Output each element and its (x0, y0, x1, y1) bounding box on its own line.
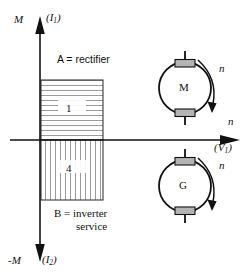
axis-label-current-i1: (I1) (46, 12, 61, 25)
axis-arrow-up-icon (35, 16, 45, 34)
diagram-canvas (0, 0, 249, 275)
curved-rotation-arrowhead-icon (207, 200, 216, 211)
curved-rotation-arrowhead-icon (207, 102, 216, 113)
axis-label-current-i2: (I2) (42, 254, 57, 267)
axis-label-voltage-v1-open: (V (214, 141, 224, 153)
rotation-label-generator: n (219, 160, 225, 171)
rectifier-caption: A = rectifier (57, 54, 110, 65)
inverter-caption-line2: service (54, 221, 107, 232)
machine-letter-motor: M (179, 82, 189, 93)
figure-container: M (I1) -M (I2) n (V1) 1 4 A = rectifier … (0, 0, 249, 275)
terminal-block-icon (175, 207, 195, 215)
machine-letter-generator: G (179, 180, 187, 191)
axis-label-speed-n: n (228, 116, 234, 127)
inverter-caption-line1: B = inverter (54, 207, 107, 219)
axis-label-torque-m: M (14, 14, 23, 25)
axis-label-voltage-v1: (V1) (214, 142, 232, 155)
rotation-label-motor: n (219, 63, 225, 74)
inverter-caption: B = inverterservice (54, 208, 107, 232)
terminal-block-icon (175, 109, 195, 117)
quadrant-4-number: 4 (66, 163, 72, 174)
quadrant-4-number-backdrop (58, 160, 86, 173)
quadrant-1-number-backdrop (58, 100, 86, 113)
terminal-block-icon (175, 158, 195, 166)
axis-label-current-i2-close: ) (53, 253, 57, 265)
axis-label-torque-negative-m: -M (8, 255, 21, 266)
quadrant-1-number: 1 (66, 103, 72, 114)
axis-label-voltage-v1-close: ) (228, 141, 232, 153)
terminal-block-icon (175, 60, 195, 68)
axis-label-current-i1-close: ) (57, 11, 61, 23)
machine-symbol-generator (159, 149, 217, 223)
